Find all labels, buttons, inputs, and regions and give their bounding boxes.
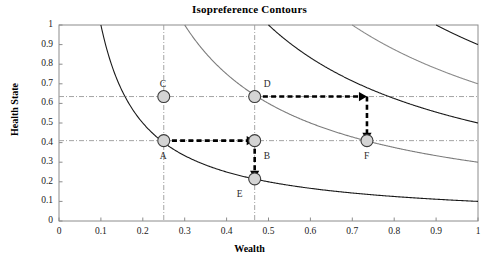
- chart-figure: Isopreference Contours Health State Weal…: [0, 0, 499, 261]
- y-tick-label: 0.3: [23, 156, 53, 166]
- x-tick-label: 0.5: [254, 226, 284, 236]
- x-tick-label: 0.2: [128, 226, 158, 236]
- annotation-arrows: [164, 92, 372, 179]
- y-tick-label: 0.9: [23, 39, 53, 49]
- point-label-e: E: [237, 189, 243, 199]
- point-label-b: B: [264, 151, 270, 161]
- point-label-c: C: [160, 79, 166, 89]
- x-tick-label: 1: [463, 226, 493, 236]
- point-label-d: D: [264, 79, 271, 89]
- x-tick-label: 0.3: [170, 226, 200, 236]
- y-tick-label: 0.7: [23, 78, 53, 88]
- y-tick-label: 0.5: [23, 117, 53, 127]
- x-tick-label: 0.7: [337, 226, 367, 236]
- plot-area: [0, 0, 499, 261]
- axis-frame: [59, 25, 478, 221]
- x-tick-label: 0.4: [212, 226, 242, 236]
- point-label-a: A: [160, 151, 167, 161]
- data-points: [158, 91, 373, 185]
- y-tick-label: 0.6: [23, 97, 53, 107]
- y-tick-label: 0.4: [23, 137, 53, 147]
- x-tick-label: 0.8: [379, 226, 409, 236]
- y-tick-label: 0: [23, 215, 53, 225]
- y-tick-label: 0.8: [23, 58, 53, 68]
- x-tick-label: 0.1: [86, 226, 116, 236]
- contour-curves: [101, 25, 478, 201]
- y-tick-label: 0.1: [23, 195, 53, 205]
- y-tick-label: 0.2: [23, 176, 53, 186]
- x-tick-label: 0.9: [421, 226, 451, 236]
- x-tick-label: 0.6: [295, 226, 325, 236]
- x-tick-label: 0: [44, 226, 74, 236]
- y-tick-label: 1: [23, 19, 53, 29]
- reference-lines: [59, 25, 478, 221]
- point-label-f: F: [364, 151, 369, 161]
